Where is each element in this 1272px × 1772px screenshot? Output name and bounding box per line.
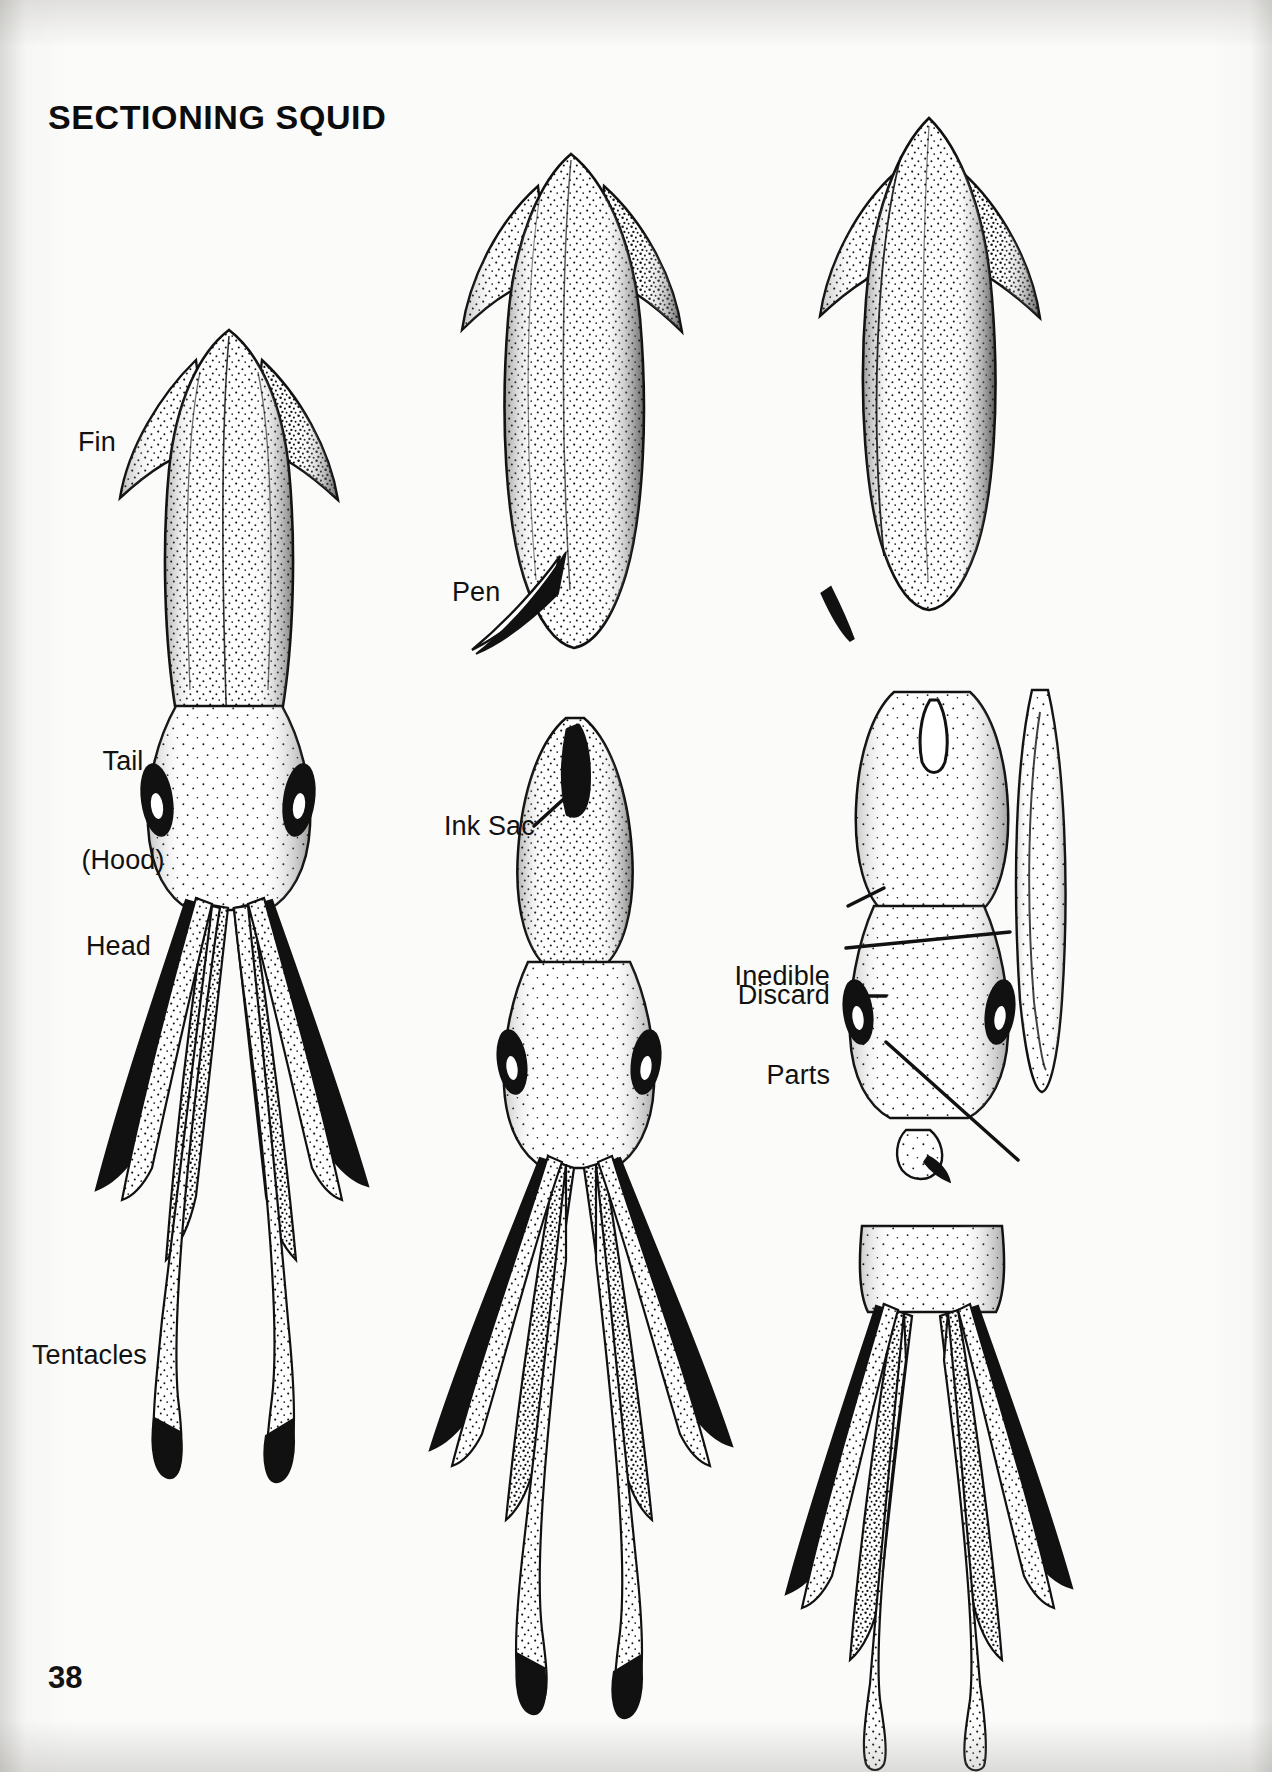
- book-page: SECTIONING SQUID Fin Tail (Hood) Head Te…: [0, 0, 1272, 1772]
- label-inedible-line-2: Parts: [606, 1059, 830, 1092]
- page-number: 38: [48, 1660, 82, 1696]
- label-head: Head: [86, 929, 151, 963]
- panel-mantle-cleaned: [820, 118, 1040, 640]
- squid-illustration: [0, 0, 1272, 1772]
- label-tentacles: Tentacles: [32, 1338, 147, 1372]
- label-fin: Fin: [78, 425, 116, 459]
- label-discard: Discard: [606, 978, 830, 1012]
- label-tail-line-2: (Hood): [58, 844, 188, 877]
- label-inedible-parts: Inedible Parts: [606, 894, 830, 1158]
- ink-sac-shape: [564, 726, 589, 815]
- arms-middle-panel: [430, 1156, 732, 1718]
- removed-pen: [824, 590, 852, 640]
- label-pen: Pen: [452, 575, 500, 609]
- panel-squid-ink-sac: [430, 718, 732, 1718]
- pen-outline: [920, 700, 947, 773]
- label-ink-sac: Ink Sac: [444, 809, 535, 843]
- label-tail-line-1: Tail: [58, 745, 188, 778]
- label-tail-hood: Tail (Hood): [58, 679, 188, 943]
- page-title: SECTIONING SQUID: [48, 98, 386, 137]
- panel-tentacle-section: [786, 1226, 1072, 1770]
